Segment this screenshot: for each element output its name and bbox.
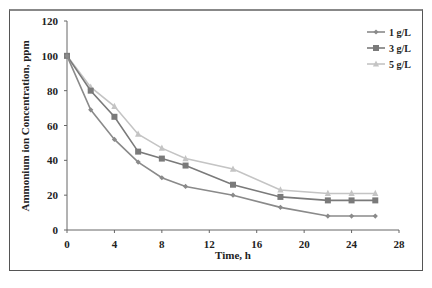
x-tick-label: 16	[251, 238, 263, 250]
square-marker	[135, 149, 141, 155]
series-5-g-l	[64, 52, 378, 196]
legend-item: 5 g/L	[367, 59, 411, 70]
x-tick-label: 12	[204, 238, 216, 250]
y-axis-title: Ammonium ion Concentration, ppm	[19, 40, 31, 211]
x-tick-label: 28	[394, 238, 406, 250]
x-tick-label: 0	[64, 238, 70, 250]
square-marker	[183, 163, 189, 169]
diamond-marker	[230, 193, 235, 198]
y-tick-label: 40	[47, 154, 59, 166]
legend-label: 5 g/L	[389, 59, 411, 70]
square-marker	[159, 156, 165, 162]
square-marker	[372, 197, 378, 203]
square-marker	[277, 194, 283, 200]
data-series	[64, 52, 378, 218]
square-marker	[373, 45, 379, 51]
diamond-marker	[373, 213, 378, 218]
x-axis-title: Time, h	[215, 249, 251, 261]
y-tick-label: 120	[42, 15, 59, 27]
legend-label: 3 g/L	[389, 43, 411, 54]
diamond-marker	[325, 213, 330, 218]
y-tick-label: 20	[47, 189, 59, 201]
y-tick-label: 0	[53, 224, 59, 236]
series-line	[67, 56, 375, 216]
square-marker	[325, 197, 331, 203]
series-line	[67, 56, 375, 194]
diamond-marker	[349, 213, 354, 218]
series-3-g-l	[64, 53, 378, 204]
square-marker	[111, 114, 117, 120]
x-tick-label: 8	[159, 238, 165, 250]
diamond-marker	[278, 205, 283, 210]
series-line	[67, 56, 375, 201]
x-tick-label: 24	[346, 238, 358, 250]
y-tick-label: 100	[42, 50, 59, 62]
legend: 1 g/L3 g/L5 g/L	[367, 27, 411, 70]
legend-item: 1 g/L	[367, 27, 411, 38]
square-marker	[230, 182, 236, 188]
legend-item: 3 g/L	[367, 43, 411, 54]
diamond-marker	[373, 29, 378, 34]
square-marker	[88, 88, 94, 94]
x-tick-label: 20	[299, 238, 311, 250]
legend-label: 1 g/L	[389, 27, 411, 38]
line-chart: 0204060801001200481216202428 1 g/L3 g/L5…	[0, 0, 432, 288]
square-marker	[349, 197, 355, 203]
diamond-marker	[183, 184, 188, 189]
x-tick-label: 4	[112, 238, 118, 250]
y-tick-label: 60	[47, 120, 59, 132]
y-tick-label: 80	[47, 85, 59, 97]
